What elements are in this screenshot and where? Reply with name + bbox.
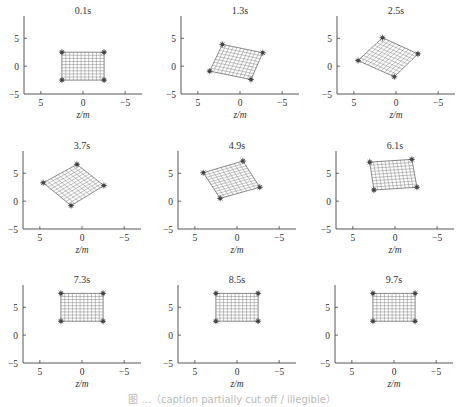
corner-marker-tr bbox=[257, 184, 263, 190]
x-tick-label: −5 bbox=[433, 98, 443, 108]
mesh-line-horizontal bbox=[47, 181, 75, 204]
mesh-line-vertical bbox=[368, 42, 392, 65]
y-tick-label: 0 bbox=[14, 62, 19, 72]
panel-3_7s: 3.7s50−550−5z/m bbox=[8, 140, 141, 255]
membrane-mesh bbox=[61, 293, 103, 321]
corner-marker-tr bbox=[260, 50, 266, 56]
y-tick-label: 5 bbox=[171, 34, 176, 44]
figure: 0.1s50−550−5z/m1.3s50−550−5z/m2.5s50−550… bbox=[0, 0, 464, 407]
x-tick-label: 0 bbox=[81, 98, 86, 108]
corner-marker-br bbox=[248, 77, 254, 83]
corner-marker-tr bbox=[415, 51, 421, 57]
panel-0_1s: 0.1s50−550−5z/m bbox=[9, 5, 142, 120]
corner-marker-tl bbox=[367, 159, 373, 165]
mesh-line-vertical bbox=[400, 160, 405, 188]
x-tick-label: 0 bbox=[238, 98, 243, 108]
corner-marker-br bbox=[255, 318, 261, 324]
y-tick-label: 0 bbox=[326, 197, 331, 207]
mesh-line-horizontal bbox=[217, 169, 234, 195]
y-tick-label: 5 bbox=[326, 169, 331, 179]
corner-marker-tl bbox=[240, 158, 246, 164]
panel-title: 9.7s bbox=[386, 274, 403, 285]
corner-marker-tr bbox=[101, 183, 107, 189]
y-tick-label: 5 bbox=[13, 169, 18, 179]
x-tick-label: 5 bbox=[37, 367, 42, 377]
y-tick-label: −5 bbox=[9, 90, 19, 100]
y-tick-label: 5 bbox=[168, 169, 173, 179]
mesh-line-horizontal bbox=[374, 184, 417, 187]
y-tick-label: −5 bbox=[8, 225, 18, 235]
membrane-mesh bbox=[43, 164, 104, 205]
mesh-line-horizontal bbox=[225, 166, 242, 192]
mesh-line-vertical bbox=[404, 160, 409, 188]
mesh-line-vertical bbox=[381, 161, 386, 189]
mesh-line-horizontal bbox=[203, 173, 220, 199]
mesh-line-vertical bbox=[397, 160, 402, 188]
mesh-line-horizontal bbox=[51, 179, 79, 201]
mesh-line-vertical bbox=[408, 160, 413, 188]
mesh-line-horizontal bbox=[371, 169, 413, 172]
mesh-line-vertical bbox=[385, 161, 390, 189]
y-tick-label: −5 bbox=[320, 359, 330, 369]
mesh-line-horizontal bbox=[370, 163, 412, 166]
y-tick-label: 0 bbox=[171, 62, 176, 72]
x-tick-label: 5 bbox=[192, 233, 197, 243]
panel-6_1s: 6.1s50−550−5z/m bbox=[321, 140, 454, 255]
y-tick-label: −5 bbox=[163, 359, 173, 369]
axes-lines bbox=[24, 16, 142, 94]
corner-marker-bl bbox=[370, 318, 376, 324]
mesh-line-vertical bbox=[365, 41, 389, 64]
corner-marker-br bbox=[101, 77, 107, 83]
panel-1_3s: 1.3s50−550−5z/m bbox=[166, 5, 299, 120]
corner-marker-tr bbox=[255, 290, 261, 296]
mesh-line-vertical bbox=[371, 44, 395, 67]
mesh-line-vertical bbox=[394, 54, 418, 77]
x-tick-label: 5 bbox=[195, 98, 200, 108]
y-tick-label: 0 bbox=[327, 62, 332, 72]
membrane-mesh bbox=[373, 293, 415, 321]
x-axis-label: z/m bbox=[74, 379, 88, 389]
panel-4_9s: 4.9s50−550−5z/m bbox=[163, 140, 296, 255]
y-tick-label: −5 bbox=[322, 90, 332, 100]
axes-lines bbox=[181, 16, 299, 94]
x-axis-label: z/m bbox=[75, 110, 89, 120]
corner-marker-bl bbox=[371, 187, 377, 193]
corner-marker-br bbox=[68, 203, 74, 209]
panel-2_5s: 2.5s50−550−5z/m bbox=[322, 5, 455, 120]
x-tick-label: 5 bbox=[192, 367, 197, 377]
corner-marker-tr bbox=[101, 49, 107, 55]
mesh-line-horizontal bbox=[230, 165, 247, 191]
y-tick-label: 5 bbox=[168, 303, 173, 313]
y-tick-label: −5 bbox=[8, 359, 18, 369]
x-tick-label: −5 bbox=[119, 233, 129, 243]
corner-marker-tl bbox=[74, 161, 80, 167]
mesh-line-horizontal bbox=[372, 172, 415, 175]
x-tick-label: 5 bbox=[351, 98, 356, 108]
y-tick-label: −5 bbox=[321, 225, 331, 235]
x-tick-label: −5 bbox=[432, 233, 442, 243]
x-tick-label: −5 bbox=[431, 367, 441, 377]
panel-title: 2.5s bbox=[388, 5, 405, 16]
corner-marker-tl bbox=[58, 290, 64, 296]
x-tick-label: −5 bbox=[274, 233, 284, 243]
mesh-line-vertical bbox=[377, 162, 381, 190]
axes-lines bbox=[336, 151, 454, 229]
y-tick-label: 0 bbox=[13, 331, 18, 341]
x-axis-label: z/m bbox=[232, 110, 246, 120]
x-axis-label: z/m bbox=[387, 245, 401, 255]
y-tick-label: 5 bbox=[327, 34, 332, 44]
mesh-line-vertical bbox=[378, 47, 402, 70]
corner-marker-tr bbox=[409, 156, 415, 162]
axes-lines bbox=[23, 151, 141, 229]
corner-marker-bl bbox=[40, 180, 46, 186]
y-tick-label: 0 bbox=[325, 331, 330, 341]
mesh-line-horizontal bbox=[43, 183, 71, 206]
x-tick-label: 5 bbox=[38, 98, 43, 108]
corner-marker-br bbox=[100, 318, 106, 324]
mesh-line-vertical bbox=[361, 39, 385, 62]
corner-marker-br bbox=[391, 74, 397, 80]
corner-marker-bl bbox=[58, 318, 64, 324]
y-tick-label: 0 bbox=[168, 331, 173, 341]
mesh-line-horizontal bbox=[373, 181, 416, 184]
corner-marker-bl bbox=[207, 68, 213, 74]
